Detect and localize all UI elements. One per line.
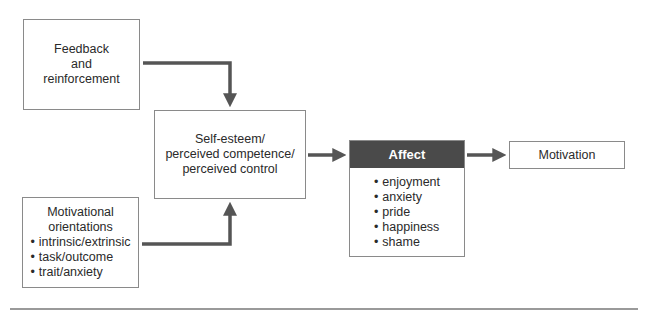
arrows-layer <box>0 0 648 313</box>
arrow-feedback-to-self-esteem <box>143 63 230 101</box>
bottom-rule <box>10 308 638 310</box>
arrow-orientations-to-self-esteem <box>142 208 230 244</box>
